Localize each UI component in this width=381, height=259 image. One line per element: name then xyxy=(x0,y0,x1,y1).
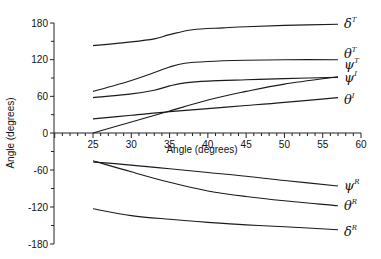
series-line-3 xyxy=(93,77,338,133)
x-tick-label: 25 xyxy=(87,139,99,150)
y-axis: 180120600-60-120-180 xyxy=(28,18,54,250)
series-line-7 xyxy=(93,209,338,230)
series-label: ψR xyxy=(344,178,360,193)
series-lines xyxy=(93,24,338,230)
series-line-4 xyxy=(93,98,338,119)
series-line-5 xyxy=(93,162,338,186)
y-tick-label: 0 xyxy=(42,128,48,139)
x-tick-label: 30 xyxy=(126,139,138,150)
series-labels: δTθTψTψIθIψRθRδR xyxy=(344,16,360,239)
y-tick-label: -120 xyxy=(28,202,48,213)
series-label: θI xyxy=(344,92,355,107)
series-line-1 xyxy=(93,60,338,92)
series-label: δR xyxy=(344,224,358,239)
series-line-6 xyxy=(93,161,338,206)
line-chart: 180120600-60-120-180 2530354045505560 δT… xyxy=(0,0,381,259)
series-label: θR xyxy=(344,198,358,213)
y-tick-label: 60 xyxy=(37,91,49,102)
x-tick-label: 50 xyxy=(279,139,291,150)
x-axis-title: Angle (degrees) xyxy=(166,144,237,155)
y-axis-title: Angle (degrees) xyxy=(5,97,16,168)
series-label: ψI xyxy=(344,70,357,85)
x-tick-label: 45 xyxy=(241,139,253,150)
x-tick-label: 55 xyxy=(317,139,329,150)
series-label: δT xyxy=(344,16,358,31)
y-tick-label: -60 xyxy=(34,165,49,176)
y-tick-label: -180 xyxy=(28,239,48,250)
y-tick-label: 180 xyxy=(31,18,48,29)
x-tick-label: 60 xyxy=(355,139,367,150)
series-line-0 xyxy=(93,24,338,45)
y-tick-label: 120 xyxy=(31,54,48,65)
